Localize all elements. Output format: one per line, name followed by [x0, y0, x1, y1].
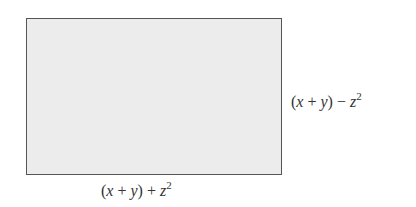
- operator-plus: +: [113, 182, 130, 199]
- operator-minus: −: [333, 93, 350, 110]
- variable-y: y: [130, 182, 137, 199]
- exponent: 2: [356, 90, 362, 102]
- operator-plus: +: [143, 182, 160, 199]
- variable-y: y: [320, 93, 327, 110]
- operator-plus: +: [303, 93, 320, 110]
- side-label-height: (x + y) − z2: [291, 94, 362, 110]
- exponent: 2: [166, 179, 172, 191]
- side-label-width: (x + y) + z2: [101, 183, 172, 199]
- rectangle-shape: [26, 18, 282, 175]
